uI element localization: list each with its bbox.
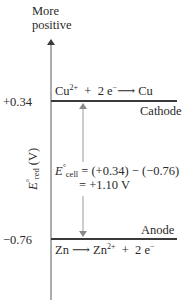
- y-axis-degree: °: [25, 179, 34, 182]
- zn-metal: Zn: [55, 243, 69, 257]
- y-axis-unit: (V): [26, 148, 40, 165]
- more-label: More: [32, 4, 72, 18]
- cu-metal: Cu: [138, 84, 153, 98]
- anode-equation: Zn ⟶ Zn2+ + 2 e−: [55, 243, 154, 257]
- cathode-label: Cathode: [140, 104, 182, 118]
- cathode-value: +0.34: [3, 95, 32, 109]
- anode-value: −0.76: [3, 233, 32, 247]
- y-axis-symbol: E: [26, 182, 40, 190]
- positive-label: positive: [32, 18, 72, 32]
- ecell-equation: E°cell = (+0.34) − (−0.76): [55, 164, 179, 178]
- electrons: 2 e: [135, 243, 150, 257]
- more-positive-label: More positive: [32, 4, 72, 32]
- anode-label: Anode: [141, 223, 174, 237]
- cu-charge: 2+: [70, 83, 79, 92]
- ecell-line1: = (+0.34) − (−0.76): [81, 164, 179, 178]
- plus-sign: +: [122, 243, 129, 257]
- reaction-arrow: ⟶: [72, 243, 90, 257]
- cu-ion: Cu: [55, 84, 70, 98]
- cathode-equation: Cu2+ + 2 e−⟶ Cu: [55, 84, 153, 98]
- ecell-subscript: cell: [66, 169, 78, 179]
- electrons: 2 e: [98, 84, 113, 98]
- plus-sign: +: [84, 84, 91, 98]
- reaction-arrow: ⟶: [117, 84, 135, 98]
- zn-ion: Zn: [93, 243, 107, 257]
- ecell-result: = +1.10 V: [79, 178, 130, 192]
- electron-charge: −: [150, 242, 155, 251]
- ecell-symbol: E: [55, 164, 63, 178]
- y-axis-label: E°red (V): [26, 148, 40, 190]
- y-axis-subscript: red: [31, 168, 41, 179]
- zn-charge: 2+: [107, 242, 116, 251]
